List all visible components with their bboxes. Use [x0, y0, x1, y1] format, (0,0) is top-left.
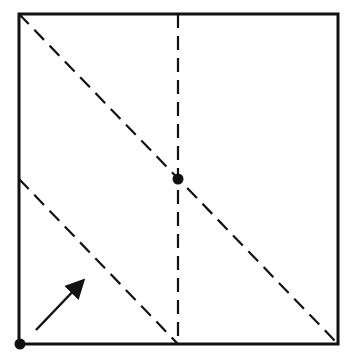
bottom-left-corner-point — [15, 339, 26, 350]
arrow-icon — [36, 284, 80, 330]
diagram-canvas — [0, 0, 349, 358]
center-point — [173, 174, 184, 185]
lower-diagonal-dashed-line — [19, 179, 178, 344]
fold-diagram — [0, 0, 349, 358]
